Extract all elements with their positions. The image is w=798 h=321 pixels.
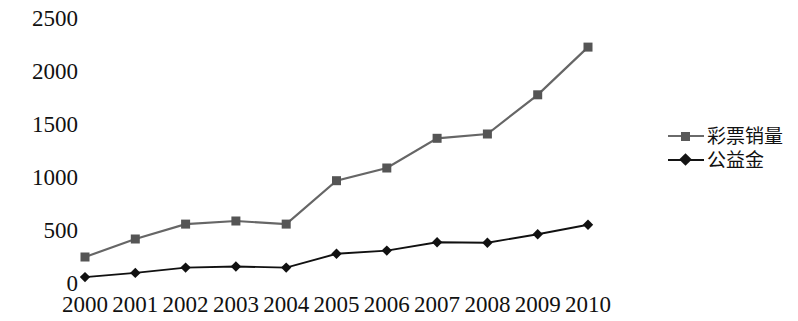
y-tick-label: 2500 <box>6 7 78 30</box>
data-point-square-marker <box>231 217 240 226</box>
data-point-diamond-marker <box>281 262 291 272</box>
data-point-square-marker <box>282 220 291 229</box>
series-lottery-sales <box>80 220 593 283</box>
legend-label-0: 彩票销量 <box>707 126 783 147</box>
data-point-square-marker <box>181 220 190 229</box>
data-point-square-marker <box>584 43 593 52</box>
data-point-diamond-marker <box>130 268 140 278</box>
legend-marker-square-icon <box>668 127 704 145</box>
data-point-diamond-marker <box>432 237 442 247</box>
data-point-diamond-marker <box>180 262 190 272</box>
data-point-diamond-marker <box>382 245 392 255</box>
data-point-square-marker <box>483 130 492 139</box>
y-tick-label: 2000 <box>6 60 78 83</box>
data-point-square-marker <box>533 90 542 99</box>
data-point-square-marker <box>433 134 442 143</box>
data-point-diamond-marker <box>80 272 90 282</box>
series-line <box>85 47 588 257</box>
y-tick-label: 1500 <box>6 113 78 136</box>
data-point-diamond-marker <box>583 220 593 230</box>
data-point-diamond-marker <box>331 249 341 259</box>
legend-label-1: 公益金 <box>707 150 764 171</box>
data-point-square-marker <box>81 253 90 262</box>
data-point-square-marker <box>332 176 341 185</box>
series-welfare-fund <box>81 43 593 262</box>
y-tick-label: 500 <box>6 219 78 242</box>
legend-marker-diamond-icon <box>668 151 704 169</box>
data-point-diamond-marker <box>482 238 492 248</box>
data-point-square-marker <box>131 235 140 244</box>
legend-item-1[interactable]: 公益金 <box>668 148 798 172</box>
legend-item-0[interactable]: 彩票销量 <box>668 124 798 148</box>
y-tick-label: 1000 <box>6 166 78 189</box>
data-point-diamond-marker <box>533 229 543 239</box>
x-tick-label: 2010 <box>556 292 620 317</box>
data-point-diamond-marker <box>231 261 241 271</box>
data-point-square-marker <box>382 164 391 173</box>
y-axis-tick-labels: 05001000150020002500 <box>0 0 78 321</box>
chart-legend: 彩票销量 公益金 <box>668 124 798 172</box>
chart-page: 05001000150020002500 2000200120022003200… <box>0 0 798 321</box>
x-axis-tick-labels: 2000200120022003200420052006200720082009… <box>0 292 798 321</box>
